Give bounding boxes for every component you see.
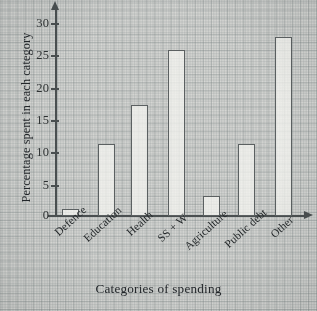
plot-area: 0 5 10 15 20 25 30 Defence Education Hea… [0,0,317,311]
y-tick-mark-30 [51,23,59,25]
y-tick-mark-15 [51,120,59,122]
bar-public-debt [238,144,255,216]
x-axis-arrow-icon [304,211,313,219]
bar-ss-w [168,50,185,216]
y-axis-arrow-icon [51,1,59,10]
x-axis-title: Categories of spending [0,281,317,297]
y-axis-title: Percentage spent in each category [19,20,34,216]
y-tick-mark-5 [51,185,59,187]
y-tick-mark-10 [51,152,59,154]
bar-other [275,37,292,216]
y-tick-mark-25 [51,55,59,57]
bar-education [98,144,115,216]
bar-chart-figure: 0 5 10 15 20 25 30 Defence Education Hea… [0,0,317,311]
y-tick-mark-20 [51,88,59,90]
y-tick-mark-0 [51,215,59,217]
x-category-label-other: Other [268,213,296,239]
bar-health [131,105,148,216]
